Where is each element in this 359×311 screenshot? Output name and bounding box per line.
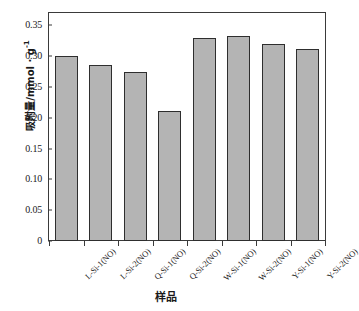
x-tick-label: W-Si-2(NO) [257,247,293,283]
y-axis-title-text: 吸附量/mmol · g [25,48,36,131]
y-tick-label: 0.05 [25,205,42,215]
bars-container [49,13,325,241]
x-tick-mark [49,241,50,246]
y-axis-title-exponent: -1 [23,40,31,48]
x-tick-label: L-Si-1(NO) [84,247,118,281]
x-axis-title: 样品 [0,288,332,304]
bar [262,44,285,241]
x-tick-mark [325,241,326,246]
bar [55,56,78,241]
bar [193,38,216,241]
x-tick-mark [291,241,292,246]
bar [158,111,181,241]
bar [124,72,147,241]
x-tick-mark [222,241,223,246]
x-tick-label: Y-Si-2(NO) [325,247,359,281]
bar [89,65,112,241]
x-tick-label: L-Si-2(NO) [118,247,152,281]
x-tick-mark [187,241,188,246]
x-tick-mark [256,241,257,246]
x-tick-label: Q-Si-2(NO) [187,247,222,282]
x-tick-label: Y-Si-1(NO) [291,247,325,281]
x-tick-mark [84,241,85,246]
x-axis-tick-labels: L-Si-1(NO)L-Si-2(NO)Q-Si-1(NO)Q-Si-2(NO)… [49,247,325,291]
y-axis-title: 吸附量/mmol · g-1 [22,1,37,171]
x-tick-mark [153,241,154,246]
y-tick-label: 0 [37,236,42,246]
x-tick-mark [118,241,119,246]
y-tick-label: 0.10 [25,174,42,184]
bar [296,49,319,241]
bar [227,36,250,241]
x-tick-label: W-Si-1(NO) [222,247,258,283]
x-tick-label: Q-Si-1(NO) [153,247,188,282]
